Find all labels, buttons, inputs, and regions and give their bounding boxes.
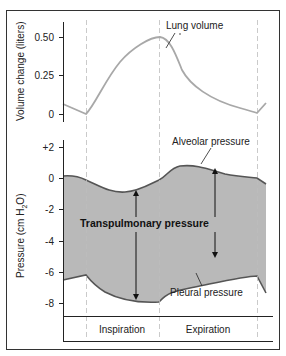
lung-volume-line [63, 37, 266, 114]
pressure-tick-minus6: -6 [45, 267, 54, 278]
inspiration-label: Inspiration [99, 324, 145, 335]
expiration-label: Expiration [186, 324, 230, 335]
transpulmonary-pressure-label: Transpulmonary pressure [80, 217, 209, 229]
pressure-tick-minus8: -8 [45, 298, 54, 309]
alveolar-pressure-pointer [201, 148, 211, 164]
pressure-tick-minus4: -4 [45, 236, 54, 247]
alveolar-pressure-label: Alveolar pressure [172, 136, 250, 147]
respiratory-pressure-diagram: 0.50 0.25 0 Volume change (liters) +2 0 … [0, 0, 286, 356]
pressure-tick-0: 0 [48, 173, 54, 184]
pressure-tick-plus2: +2 [43, 142, 55, 153]
volume-tick-050: 0.50 [35, 32, 55, 43]
pressure-tick-minus2: -2 [45, 204, 54, 215]
volume-tick-025: 0.25 [35, 70, 55, 81]
volume-tick-0: 0 [48, 109, 54, 120]
pressure-y-label: Pressure (cm H2O) [15, 194, 28, 278]
lung-volume-label: Lung volume [166, 20, 224, 31]
volume-y-label: Volume change (liters) [15, 22, 26, 122]
pleural-pressure-label: Pleural pressure [170, 287, 243, 298]
transpulmonary-area [63, 166, 266, 303]
